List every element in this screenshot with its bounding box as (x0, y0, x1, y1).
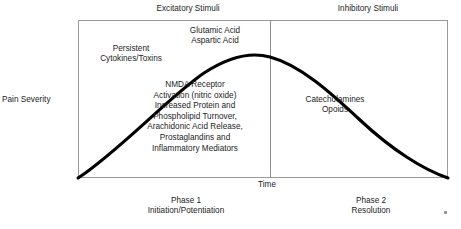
inhibitory-stimuli-label: Inhibitory Stimuli (298, 4, 438, 14)
pain-severity-figure: Excitatory Stimuli Inhibitory Stimuli Pa… (0, 0, 461, 229)
phase-divider-line (270, 20, 271, 178)
annotation-persistent-cytokines: Persistent Cytokines/Toxins (76, 44, 186, 65)
excitatory-stimuli-label: Excitatory Stimuli (118, 4, 258, 14)
phase-2-caption: Phase 2 Resolution (306, 196, 436, 217)
x-axis-label: Time (258, 180, 298, 190)
y-axis-label: Pain Severity (2, 95, 74, 105)
scan-artifact-speck (444, 211, 447, 214)
annotation-nmda-receptor-cascade: NMDA Receptor Activation (nitric oxide) … (120, 80, 270, 154)
annotation-catecholamines-opoids: Catecholamines Opoids (282, 95, 388, 116)
phase-1-caption: Phase 1 Initiation/Potentiation (104, 196, 268, 217)
annotation-glutamic-aspartic-acid: Glutamic Acid Aspartic Acid (163, 26, 267, 47)
